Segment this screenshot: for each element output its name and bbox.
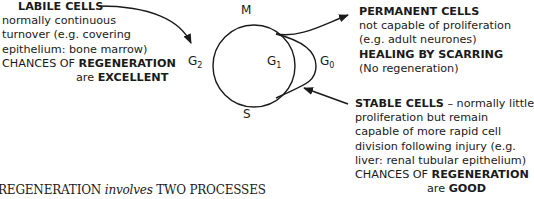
phase-g0-label: G0 [320,54,334,74]
arrow-to-permanent [276,15,348,35]
arrow-from-stable [304,88,348,104]
phase-s-label: S [243,107,251,121]
phase-m-label: M [241,3,251,17]
labile-cells-block: LABILE CELLS normally continuous turnove… [2,0,176,85]
footer-caption: REGENERATION involves TWO PROCESSES [0,183,266,197]
phase-g1-label: G1 [267,54,281,74]
phase-g2-label: G2 [188,54,202,74]
stable-title: STABLE CELLS [355,97,444,110]
permanent-title: PERMANENT CELLS [359,5,479,18]
g0-loop [276,34,316,98]
stable-cells-block: STABLE CELLS – normally little prolifera… [355,97,534,196]
labile-title: LABILE CELLS [18,0,103,13]
permanent-cells-block: PERMANENT CELLS not capable of prolifera… [359,5,511,76]
